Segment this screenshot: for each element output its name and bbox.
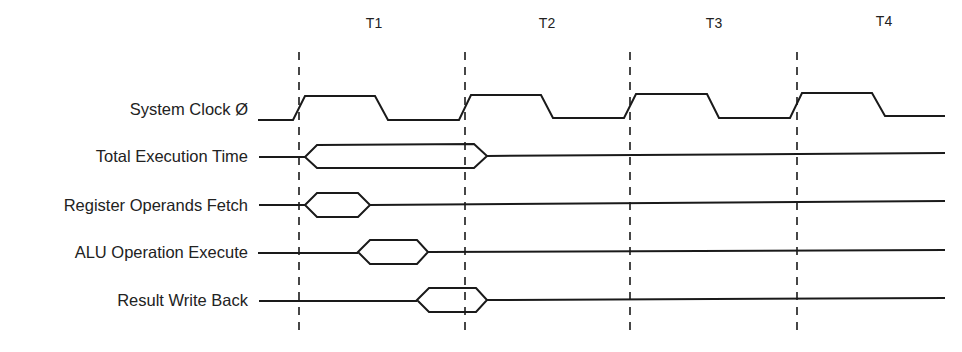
alu-operation-execute-waveform — [258, 240, 945, 264]
register-operands-fetch-waveform — [259, 193, 945, 217]
result-write-back-waveform — [259, 288, 945, 312]
timing-waveforms — [0, 0, 962, 352]
period-boundaries — [299, 52, 797, 336]
system-clock-waveform — [258, 93, 945, 120]
total-execution-time-waveform — [259, 144, 945, 168]
